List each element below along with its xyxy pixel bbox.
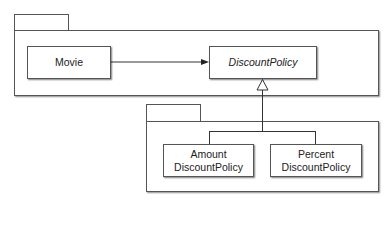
class-amount-discount-policy: Amount DiscountPolicy bbox=[163, 144, 254, 177]
class-percent-discount-policy: Percent DiscountPolicy bbox=[270, 144, 362, 177]
association-arrowhead-icon bbox=[201, 59, 209, 65]
class-percent-label-line1: Percent bbox=[298, 148, 334, 161]
class-discount-policy: DiscountPolicy bbox=[209, 46, 317, 79]
class-movie: Movie bbox=[27, 46, 111, 79]
class-amount-label-line2: DiscountPolicy bbox=[174, 161, 243, 174]
generalization-triangle-icon bbox=[257, 80, 268, 91]
class-percent-label-line2: DiscountPolicy bbox=[282, 161, 351, 174]
class-amount-label-line1: Amount bbox=[190, 148, 226, 161]
class-movie-label: Movie bbox=[55, 56, 83, 69]
class-discount-policy-label: DiscountPolicy bbox=[229, 56, 298, 69]
